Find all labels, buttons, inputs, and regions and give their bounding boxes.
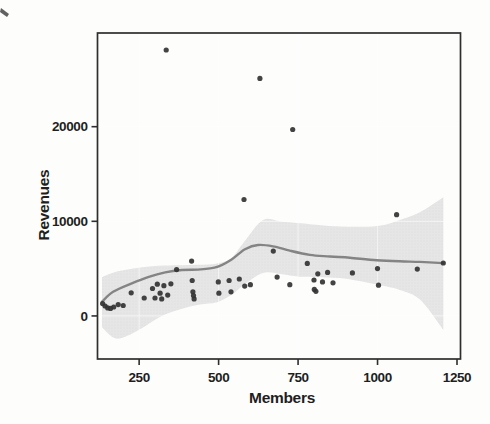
data-point [290, 127, 295, 132]
data-point [350, 270, 355, 275]
data-point [228, 289, 233, 294]
data-point [142, 295, 147, 300]
data-point [190, 278, 195, 283]
data-point [315, 271, 320, 276]
data-point [248, 282, 253, 287]
data-point [275, 275, 280, 280]
data-point [242, 284, 247, 289]
scanned-figure-page: 2505007501000125001000020000 Members Rev… [0, 0, 490, 424]
data-point [305, 261, 310, 266]
data-point [271, 249, 276, 254]
data-point [237, 276, 242, 281]
data-point [189, 259, 194, 264]
x-tick-label: 750 [287, 370, 308, 385]
y-axis-title: Revenues [35, 170, 52, 241]
data-point [192, 296, 197, 301]
data-point [325, 270, 330, 275]
data-point [164, 47, 169, 52]
data-point [150, 286, 155, 291]
data-point [287, 282, 292, 287]
data-point [155, 282, 160, 287]
data-point [121, 303, 126, 308]
data-point [375, 266, 380, 271]
data-point [161, 283, 166, 288]
data-point [330, 280, 335, 285]
scan-artifact [0, 8, 9, 17]
data-point [116, 302, 121, 307]
data-point [129, 290, 134, 295]
data-point [158, 291, 163, 296]
confidence-band-texture [102, 197, 443, 339]
data-point [159, 296, 164, 301]
data-point [111, 304, 116, 309]
data-point [320, 279, 325, 284]
data-point [241, 197, 246, 202]
data-point [257, 76, 262, 81]
data-point [227, 278, 232, 283]
data-point [311, 277, 316, 282]
y-tick-label: 0 [80, 309, 87, 324]
y-tick-label: 10000 [52, 214, 88, 229]
x-tick-label: 500 [208, 370, 229, 385]
data-point [168, 281, 173, 286]
revenues-vs-members-scatter-plot: 2505007501000125001000020000 Members Rev… [0, 0, 490, 424]
x-axis-title: Members [249, 389, 315, 406]
data-point [415, 267, 420, 272]
data-point [216, 279, 221, 284]
data-point [174, 267, 179, 272]
data-point [394, 212, 399, 217]
data-point [313, 289, 318, 294]
data-point [216, 291, 221, 296]
y-tick-label: 20000 [52, 119, 88, 134]
data-point [152, 295, 157, 300]
confidence-band-layer [102, 197, 443, 339]
x-tick-label: 1000 [363, 370, 391, 385]
x-tick-label: 1250 [443, 370, 471, 385]
data-point [441, 260, 446, 265]
x-tick-label: 250 [128, 370, 149, 385]
data-point [376, 283, 381, 288]
data-point [165, 293, 170, 298]
